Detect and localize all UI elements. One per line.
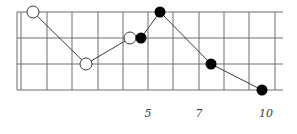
filled-circle-marker (155, 7, 166, 18)
line-chart: 5 7 10 (0, 0, 297, 134)
open-circle-marker (80, 58, 92, 70)
x-tick-label-7: 7 (196, 107, 203, 120)
filled-circle-marker (136, 33, 147, 44)
filled-circle-marker (206, 59, 217, 70)
open-circle-marker (124, 32, 136, 44)
open-circle-marker (27, 6, 39, 18)
x-tick-label-10: 10 (259, 107, 273, 120)
series-segment (211, 64, 262, 90)
chart-grid (17, 12, 283, 90)
filled-circle-marker (257, 85, 268, 96)
x-axis-labels: 5 7 10 (145, 107, 274, 120)
x-tick-label-5: 5 (145, 107, 152, 120)
